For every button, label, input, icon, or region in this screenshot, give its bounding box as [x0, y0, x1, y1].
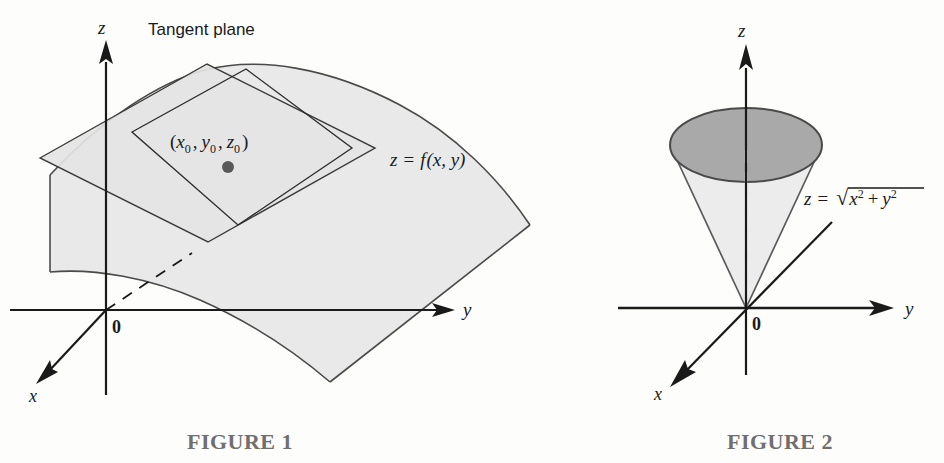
point-comma-2: , — [218, 131, 223, 152]
radical-icon: √ — [836, 185, 849, 210]
tangency-point-dot — [222, 161, 234, 173]
eq2-y-exp: 2 — [891, 187, 897, 201]
eq2-z: z — [803, 188, 812, 209]
eq2-plus: + — [868, 188, 879, 209]
paren-close: ) — [242, 131, 248, 153]
point-z-sub: 0 — [234, 142, 240, 156]
eq2-equals: = — [817, 188, 828, 209]
eq2-x-exp: 2 — [858, 187, 864, 201]
figure-page: y z x 0 Tangent plane (x0,y0,z0) — [0, 0, 944, 463]
z-axis-label: z — [737, 20, 746, 41]
figure-1: y z x 0 Tangent plane (x0,y0,z0) — [0, 0, 600, 463]
origin-label: 0 — [112, 317, 121, 337]
tangent-plane-label: Tangent plane — [148, 20, 255, 39]
z-axis-arrowhead — [99, 40, 113, 64]
x-axis: x — [28, 310, 106, 406]
z-axis-label: z — [97, 17, 106, 38]
point-y: y — [200, 131, 211, 152]
figure-1-canvas: y z x 0 Tangent plane (x0,y0,z0) — [0, 0, 600, 463]
point-x-sub: 0 — [185, 142, 191, 156]
figure-1-caption: FIGURE 1 — [0, 429, 540, 455]
eq-args: (x, y) — [426, 149, 465, 171]
cone-equation-text: z=√x2+y2 — [803, 185, 897, 210]
x-axis-label: x — [653, 384, 662, 404]
eq-z: z — [389, 149, 398, 170]
x-axis-line — [48, 310, 106, 372]
figure-2: y z x 0 z=√x2+y2 — [600, 0, 944, 463]
y-axis: y — [618, 298, 914, 319]
origin-label: 0 — [752, 314, 761, 334]
point-comma-1: , — [193, 131, 198, 152]
x-axis-label: x — [28, 386, 37, 406]
eq2-y: y — [880, 188, 891, 209]
figure-2-caption: FIGURE 2 — [608, 429, 944, 455]
cone-equation-label: z=√x2+y2 — [803, 185, 924, 210]
z-axis-arrowhead — [739, 44, 753, 70]
y-axis-label: y — [903, 298, 914, 319]
point-y-sub: 0 — [210, 142, 216, 156]
eq-equals: = — [403, 149, 414, 170]
figure-2-canvas: y z x 0 z=√x2+y2 — [600, 0, 944, 463]
y-axis-label: y — [461, 299, 472, 320]
